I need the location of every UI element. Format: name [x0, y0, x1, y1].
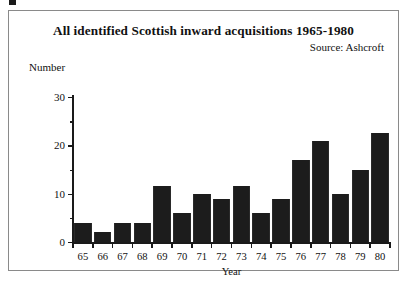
bar-65 [74, 223, 91, 242]
x-tick-mark [231, 243, 233, 248]
bar-slot [152, 97, 172, 242]
bar-slot [251, 97, 271, 242]
bar-70 [173, 213, 190, 242]
bar-73 [233, 186, 250, 242]
y-tick-label: 30 [54, 92, 65, 103]
x-label-75: 75 [271, 250, 291, 264]
x-label-69: 69 [152, 250, 172, 264]
x-tick-mark [72, 243, 74, 248]
bar-slot [192, 97, 212, 242]
bar-74 [252, 213, 269, 242]
bar-slot [350, 97, 370, 242]
bar-slot [132, 97, 152, 242]
bar-66 [94, 232, 111, 242]
bar-slot [93, 97, 113, 242]
x-label-72: 72 [212, 250, 232, 264]
x-tick-mark [132, 243, 134, 248]
x-tick-mark [92, 243, 94, 248]
x-tick-mark [330, 243, 332, 248]
x-label-74: 74 [251, 250, 271, 264]
x-tick-69 [152, 243, 172, 248]
bar-slot [232, 97, 252, 242]
x-tick-77 [311, 243, 331, 248]
x-axis-tick-labels: 65666768697071727374757677787980 [73, 250, 390, 264]
x-tick-mark [112, 243, 114, 248]
x-label-70: 70 [172, 250, 192, 264]
x-tick-mark [191, 243, 193, 248]
x-tick-79 [350, 243, 370, 248]
bar-slot [172, 97, 192, 242]
bar-68 [134, 223, 151, 242]
bar-slot [113, 97, 133, 242]
x-label-80: 80 [370, 250, 390, 264]
bar-69 [153, 186, 170, 242]
bar-slot [370, 97, 390, 242]
x-tick-mark [171, 243, 173, 248]
x-tick-mark [369, 243, 371, 248]
x-label-65: 65 [73, 250, 93, 264]
x-tick-73 [232, 243, 252, 248]
y-tick-label: 0 [60, 237, 66, 248]
x-label-78: 78 [331, 250, 351, 264]
x-tick-mark [151, 243, 153, 248]
chart-title: All identified Scottish inward acquisiti… [9, 23, 398, 39]
bar-80 [371, 133, 388, 242]
bar-72 [213, 199, 230, 243]
x-tick-66 [93, 243, 113, 248]
x-tick-68 [132, 243, 152, 248]
bar-slot [271, 97, 291, 242]
x-tick-67 [113, 243, 133, 248]
x-tick-mark [350, 243, 352, 248]
x-label-66: 66 [93, 250, 113, 264]
scan-artifact [9, 0, 16, 5]
x-tick-71 [192, 243, 212, 248]
x-label-77: 77 [311, 250, 331, 264]
x-tick-mark [251, 243, 253, 248]
x-tick-mark [270, 243, 272, 248]
x-tick-70 [172, 243, 192, 248]
x-tick-mark [310, 243, 312, 248]
x-label-68: 68 [132, 250, 152, 264]
bar-67 [114, 223, 131, 242]
x-tick-72 [212, 243, 232, 248]
y-tick-label: 10 [54, 188, 65, 199]
bar-71 [193, 194, 210, 242]
x-tick-78 [331, 243, 351, 248]
x-axis-title: Year [73, 266, 390, 277]
x-label-71: 71 [192, 250, 212, 264]
chart-frame: All identified Scottish inward acquisiti… [8, 10, 399, 271]
plot-area: 0102030 [73, 97, 390, 242]
y-axis-caption: Number [29, 61, 65, 73]
bar-79 [352, 170, 369, 243]
x-axis-ticks [73, 243, 390, 248]
x-axis-tick-end [389, 243, 391, 248]
y-tick-label: 20 [54, 140, 65, 151]
bar-slot [311, 97, 331, 242]
bar-slot [291, 97, 311, 242]
bar-slot [331, 97, 351, 242]
x-tick-75 [271, 243, 291, 248]
x-label-79: 79 [350, 250, 370, 264]
bar-77 [312, 141, 329, 243]
bar-78 [332, 194, 349, 242]
chart-source-note: Source: Ashcroft [310, 41, 384, 53]
bar-slot [212, 97, 232, 242]
x-label-76: 76 [291, 250, 311, 264]
x-tick-mark [211, 243, 213, 248]
x-tick-80 [370, 243, 390, 248]
x-tick-mark [290, 243, 292, 248]
bar-75 [272, 199, 289, 243]
x-label-73: 73 [232, 250, 252, 264]
x-tick-76 [291, 243, 311, 248]
bar-76 [292, 160, 309, 242]
x-tick-65 [73, 243, 93, 248]
x-tick-74 [251, 243, 271, 248]
bar-slot [73, 97, 93, 242]
x-label-67: 67 [113, 250, 133, 264]
bar-series [73, 97, 390, 242]
